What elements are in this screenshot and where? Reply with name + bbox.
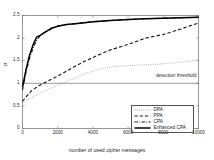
chart-legend: DPA PPA CPA Enhanced CPA	[131, 105, 194, 133]
x-axis-label: number of used cipher messages	[0, 147, 214, 153]
x-tick-label: 10000	[184, 131, 214, 136]
figure-canvas: σ number of used cipher messages detecti…	[0, 0, 214, 160]
x-tick-label: 0	[8, 131, 38, 136]
y-tick-label: 1	[1, 81, 20, 86]
y-tick-label: 2.5	[1, 13, 20, 18]
y-tick-label: 0.5	[1, 104, 20, 109]
y-tick-label: 1.5	[1, 58, 20, 63]
chart-plot-area	[0, 0, 214, 160]
series-line-dpa	[23, 60, 199, 103]
series-line-cpa	[23, 17, 199, 90]
detection-threshold-label: detection threshold	[137, 73, 197, 78]
y-tick-label: 2	[1, 36, 20, 41]
legend-label-dpa: DPA	[154, 108, 164, 113]
series-line-ppa	[23, 23, 199, 101]
x-tick-label: 6000	[113, 131, 143, 136]
x-tick-label: 8000	[148, 131, 178, 136]
y-tick-label: 0	[1, 126, 20, 131]
y-axis-label: σ	[2, 63, 8, 66]
x-tick-label: 4000	[78, 131, 108, 136]
legend-label-ppa: PPA	[154, 114, 163, 119]
x-tick-label: 2000	[43, 131, 73, 136]
legend-label-cpa: CPA	[154, 120, 164, 125]
